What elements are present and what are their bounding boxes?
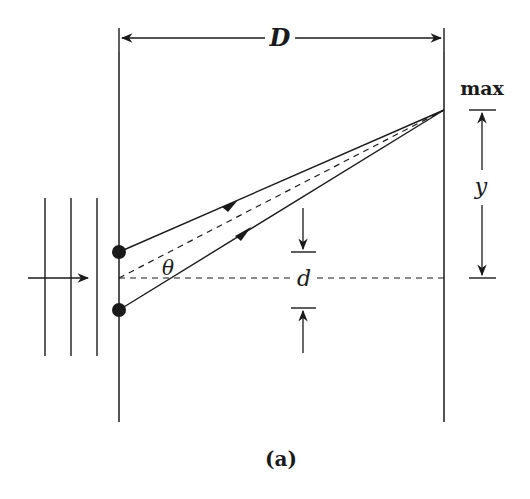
- ray-arrow-icon: [222, 200, 238, 212]
- angle-label: θ: [162, 256, 174, 280]
- incident-wavefronts: [28, 198, 97, 356]
- figure-caption: (a): [265, 447, 297, 471]
- slit-separation-label: d: [297, 266, 311, 291]
- angle-line: [119, 110, 444, 278]
- slit-separation-dimension: d: [291, 208, 316, 353]
- distance-label: D: [269, 23, 291, 52]
- offset-dimension: y: [469, 110, 496, 278]
- ray-arrow-icon: [235, 227, 251, 241]
- double-slit-diagram: D θ d max y (a): [0, 0, 530, 499]
- offset-label: y: [474, 174, 488, 199]
- maximum-label: max: [460, 77, 504, 99]
- distance-dimension: D: [119, 23, 444, 52]
- rays: [119, 110, 444, 310]
